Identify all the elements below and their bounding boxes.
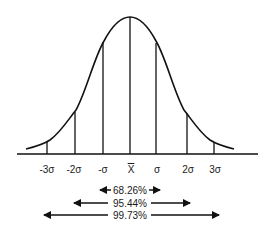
range-label-95: 95.44% [111,198,149,209]
range-label-99: 99.73% [111,210,149,221]
tick-label-minus-1sigma: -σ [98,164,108,175]
tick-label-plus-1sigma: σ [154,164,160,175]
tick-label-minus-3sigma: -3σ [39,164,54,175]
range-label-68: 68.26% [111,185,149,196]
tick-label-plus-3sigma: 3σ [209,164,221,175]
tick-label-minus-2sigma: -2σ [66,164,81,175]
tick-label-mean: X [128,164,135,175]
tick-label-plus-2sigma: 2σ [182,164,194,175]
